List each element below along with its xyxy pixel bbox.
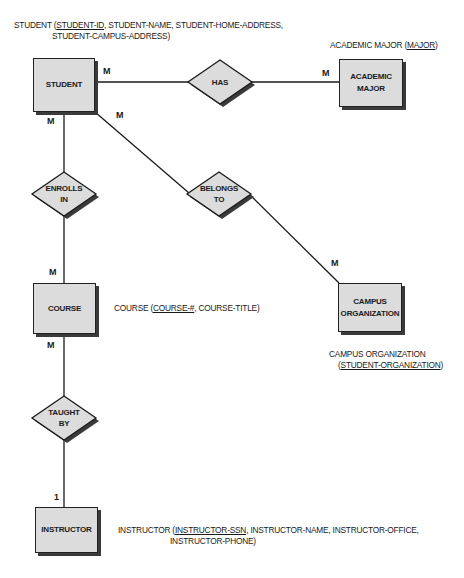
taught-text: TAUGHT: [32, 407, 96, 418]
entity-campus-organization-label-2: ORGANIZATION: [341, 308, 400, 320]
schema-instructor-key: INSTRUCTOR-SSN: [175, 525, 246, 535]
relationship-has-label: HAS: [188, 77, 252, 88]
cardinality-student-enrolls: M: [47, 116, 55, 126]
schema-course-prefix: COURSE (: [114, 303, 153, 313]
schema-student-prefix: STUDENT (: [14, 20, 56, 30]
to-text: TO: [187, 194, 251, 205]
entity-student[interactable]: STUDENT: [33, 58, 95, 112]
entity-course-label: COURSE: [48, 303, 81, 315]
schema-major-key: MAJOR: [407, 40, 435, 50]
schema-instructor-line1: INSTRUCTOR (INSTRUCTOR-SSN, INSTRUCTOR-N…: [118, 525, 419, 536]
schema-instructor-line2: INSTRUCTOR-PHONE): [118, 536, 419, 547]
schema-course: COURSE (COURSE-#, COURSE-TITLE): [114, 303, 259, 314]
entity-course[interactable]: COURSE: [33, 283, 96, 334]
schema-student-line1: STUDENT (STUDENT-ID, STUDENT-NAME, STUDE…: [14, 20, 283, 31]
cardinality-major-has: M: [322, 68, 330, 78]
entity-campus-organization-label-1: CAMPUS: [353, 296, 386, 308]
entity-academic-major-label-2: MAJOR: [357, 83, 385, 95]
schema-student-rest: , STUDENT-NAME, STUDENT-HOME-ADDRESS,: [104, 20, 283, 30]
schema-instructor-prefix: INSTRUCTOR (: [118, 525, 175, 535]
schema-student-key: STUDENT-ID: [56, 20, 104, 30]
cardinality-course-taught: M: [47, 340, 55, 350]
schema-major-prefix: ACADEMIC MAJOR (: [330, 40, 407, 50]
cardinality-student-has: M: [103, 66, 111, 76]
entity-student-label: STUDENT: [46, 79, 82, 91]
connector-belongs-org: [250, 195, 339, 283]
schema-org-key: STUDENT-ORGANIZATION: [341, 360, 441, 370]
entity-instructor-label: INSTRUCTOR: [41, 524, 91, 536]
cardinality-student-belongs: M: [116, 110, 124, 120]
in-text: IN: [32, 194, 96, 205]
schema-student: STUDENT (STUDENT-ID, STUDENT-NAME, STUDE…: [14, 20, 283, 42]
schema-course-key: COURSE-#: [153, 303, 194, 313]
entity-campus-organization[interactable]: CAMPUS ORGANIZATION: [338, 283, 402, 332]
entity-academic-major-label-1: ACADEMIC: [350, 71, 392, 83]
schema-org-suffix: ): [441, 360, 444, 370]
cardinality-instructor-taught: 1: [54, 492, 59, 502]
entity-instructor[interactable]: INSTRUCTOR: [35, 507, 98, 553]
relationship-taught-by-label: TAUGHT BY: [32, 407, 96, 429]
schema-instructor: INSTRUCTOR (INSTRUCTOR-SSN, INSTRUCTOR-N…: [118, 525, 419, 547]
relationship-enrolls-in-label: ENROLLS IN: [32, 183, 96, 205]
connector-student-belongs: [95, 112, 189, 193]
schema-instructor-rest: , INSTRUCTOR-NAME, INSTRUCTOR-OFFICE,: [246, 525, 419, 535]
belongs-text: BELONGS: [187, 183, 251, 194]
schema-course-suffix: , COURSE-TITLE): [194, 303, 259, 313]
cardinality-org-belongs: M: [331, 258, 339, 268]
cardinality-course-enrolls: M: [49, 267, 57, 277]
schema-student-line2: STUDENT-CAMPUS-ADDRESS): [14, 31, 283, 42]
schema-campus-organization: CAMPUS ORGANIZATION (STUDENT-ORGANIZATIO…: [329, 349, 443, 371]
entity-academic-major[interactable]: ACADEMIC MAJOR: [339, 59, 403, 107]
relationship-belongs-to-label: BELONGS TO: [187, 183, 251, 205]
schema-academic-major: ACADEMIC MAJOR (MAJOR): [330, 40, 438, 51]
schema-org-line1: CAMPUS ORGANIZATION: [329, 349, 443, 360]
enrolls-text: ENROLLS: [32, 183, 96, 194]
schema-major-suffix: ): [435, 40, 438, 50]
by-text: BY: [32, 418, 96, 429]
has-text: HAS: [212, 78, 228, 87]
